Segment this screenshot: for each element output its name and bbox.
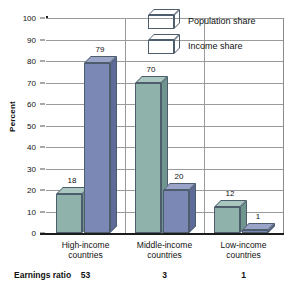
earnings-ratio-label: Earnings ratio [14,270,71,280]
y-tick-label: 90 [6,35,36,44]
bar-population-share-2 [214,207,240,233]
bar-value-label: 79 [96,45,105,54]
earnings-ratio-value-2: 1 [241,270,246,280]
y-tick-label: 20 [6,186,36,195]
category-label-0: High-incomecountries [62,240,110,260]
y-tick-mark [40,39,45,40]
bar-front-face [56,194,82,233]
bar-income-share-1 [163,190,189,233]
y-tick-label: 100 [6,14,36,23]
x-axis-line [40,233,284,235]
bar-chart: Percent 0102030405060708090100 187012792… [0,0,297,294]
y-tick-label: 60 [6,100,36,109]
y-tick-mark [40,147,45,148]
category-label-line: Middle-income [137,240,192,250]
earnings-ratio-row: Earnings ratio 5331 [0,270,297,288]
legend-swatch-income-share [148,40,174,54]
group-separator [125,18,126,233]
legend-label: Income share [188,41,243,51]
y-tick-mark [40,82,45,83]
y-tick-label: 40 [6,143,36,152]
bar-side-face [110,56,117,233]
y-tick-label: 80 [6,57,36,66]
y-tick-mark [40,18,45,19]
bar-value-label: 20 [175,172,184,181]
bar-value-label: 1 [256,212,260,221]
earnings-ratio-value-0: 53 [81,270,90,280]
bar-population-share-1 [135,83,161,234]
bar-front-face [242,230,268,233]
y-tick-mark [40,211,45,212]
legend-swatch-population-share [148,15,174,29]
y-tick-mark [40,190,45,191]
y-tick-mark [40,104,45,105]
bar-top-face [135,76,168,83]
y-axis-title: Percent [8,89,17,145]
bar-value-label: 70 [147,65,156,74]
bar-front-face [214,207,240,233]
legend-swatch-front [148,15,174,29]
bar-population-share-0 [56,194,82,233]
y-tick-label: 10 [6,207,36,216]
y-tick-mark [40,61,45,62]
category-label-line: Low-income [221,240,267,250]
y-tick-label: 50 [6,121,36,130]
bar-income-share-2 [242,230,268,233]
category-label-line: countries [62,250,110,260]
bar-income-share-0 [84,63,110,233]
y-tick-mark [40,168,45,169]
gridline [46,61,283,62]
bar-front-face [135,83,161,234]
bar-side-face [189,183,196,233]
category-label-line: High-income [62,240,110,250]
y-tick-label: 0 [6,229,36,238]
category-label-line: countries [221,250,267,260]
y-tick-label: 70 [6,78,36,87]
bar-value-label: 18 [68,176,77,185]
category-label-line: countries [137,250,192,260]
y-tick-mark [40,125,45,126]
earnings-ratio-value-1: 3 [162,270,167,280]
legend-label: Population share [188,16,256,26]
y-tick-label: 30 [6,164,36,173]
bar-front-face [163,190,189,233]
legend-swatch-front [148,40,174,54]
category-label-2: Low-incomecountries [221,240,267,260]
category-label-1: Middle-incomecountries [137,240,192,260]
bar-value-label: 12 [226,189,235,198]
bar-front-face [84,63,110,233]
